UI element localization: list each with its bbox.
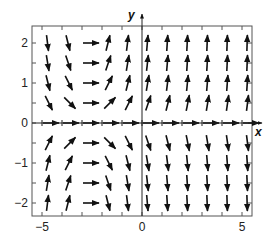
field-arrow bbox=[227, 155, 228, 171]
field-arrow bbox=[46, 175, 49, 191]
field-arrow bbox=[187, 55, 188, 71]
field-arrow bbox=[65, 156, 72, 170]
field-arrow bbox=[186, 95, 189, 111]
field-arrow bbox=[125, 136, 132, 150]
field-arrow bbox=[166, 95, 170, 111]
field-arrow bbox=[64, 97, 75, 108]
field-arrow bbox=[207, 155, 208, 171]
field-arrow bbox=[146, 155, 149, 171]
field-arrow bbox=[207, 55, 208, 71]
field-arrow bbox=[226, 135, 228, 151]
field-arrow bbox=[125, 96, 132, 110]
field-arrow bbox=[126, 175, 129, 191]
y-tick-label: 1 bbox=[21, 76, 28, 90]
field-arrow bbox=[66, 55, 71, 70]
field-arrow bbox=[207, 75, 208, 91]
field-arrow bbox=[247, 175, 248, 191]
field-arrow bbox=[106, 35, 110, 51]
field-arrow bbox=[227, 195, 228, 211]
field-arrow bbox=[106, 55, 111, 70]
field-arrow bbox=[167, 195, 168, 211]
field-arrow bbox=[206, 135, 209, 151]
x-tick-label: −5 bbox=[35, 220, 49, 234]
field-arrow bbox=[47, 195, 49, 211]
tick-labels: −505−2−1012 bbox=[14, 36, 245, 234]
field-arrow bbox=[147, 195, 148, 211]
field-arrow bbox=[126, 55, 129, 71]
field-arrow bbox=[207, 175, 208, 191]
field-arrow bbox=[147, 55, 149, 71]
field-arrow bbox=[166, 135, 170, 151]
field-arrow bbox=[187, 175, 188, 191]
field-arrow bbox=[126, 75, 130, 91]
field-arrow bbox=[247, 75, 248, 91]
field-arrow bbox=[226, 95, 228, 111]
field-arrow bbox=[167, 75, 169, 91]
field-arrow bbox=[146, 95, 151, 110]
field-arrow bbox=[104, 137, 115, 148]
field-arrow bbox=[207, 35, 208, 51]
field-arrow bbox=[247, 135, 249, 151]
field-arrow bbox=[227, 55, 228, 71]
field-arrow bbox=[45, 96, 52, 110]
field-arrow bbox=[227, 175, 228, 191]
field-arrow bbox=[65, 76, 72, 90]
field-arrow bbox=[187, 35, 188, 51]
field-arrow bbox=[167, 175, 168, 191]
field-arrow bbox=[247, 155, 248, 171]
y-tick-label: 0 bbox=[21, 116, 28, 130]
field-arrow bbox=[104, 97, 115, 108]
field-arrow bbox=[46, 155, 50, 171]
field-arrow bbox=[247, 55, 248, 71]
field-arrow bbox=[147, 35, 148, 51]
field-arrow bbox=[207, 195, 208, 211]
field-arrow bbox=[186, 135, 189, 151]
vector-field-plot: x y −505−2−1012 bbox=[0, 0, 279, 242]
field-arrow bbox=[147, 175, 149, 191]
field-arrow bbox=[66, 195, 70, 211]
field-arrow bbox=[187, 75, 189, 91]
field-arrow bbox=[106, 195, 110, 211]
field-arrow bbox=[167, 55, 168, 71]
field-arrow bbox=[187, 155, 189, 171]
field-arrow bbox=[146, 135, 151, 150]
field-arrow bbox=[47, 35, 49, 51]
field-arrow bbox=[127, 35, 129, 51]
x-tick-label: 5 bbox=[239, 220, 246, 234]
field-arrow bbox=[45, 136, 52, 150]
field-arrow bbox=[126, 155, 130, 171]
field-arrow bbox=[247, 95, 249, 111]
field-arrow bbox=[206, 95, 209, 111]
field-arrow bbox=[167, 155, 169, 171]
y-tick-label: 2 bbox=[21, 36, 28, 50]
field-arrow bbox=[127, 195, 129, 211]
field-arrow bbox=[66, 35, 70, 51]
field-arrow bbox=[146, 75, 149, 91]
field-arrow bbox=[106, 175, 111, 190]
field-arrow bbox=[227, 35, 228, 51]
x-axis-label: x bbox=[254, 125, 263, 139]
field-arrow bbox=[66, 175, 71, 190]
field-arrow bbox=[46, 75, 50, 91]
field-arrow bbox=[105, 156, 112, 170]
field-arrow bbox=[187, 195, 188, 211]
y-axis-label: y bbox=[127, 8, 136, 22]
field-arrow bbox=[167, 35, 168, 51]
y-tick-label: −1 bbox=[14, 156, 28, 170]
field-arrow bbox=[64, 137, 75, 148]
x-tick-label: 0 bbox=[139, 220, 146, 234]
y-tick-label: −2 bbox=[14, 196, 28, 210]
field-arrow bbox=[227, 75, 228, 91]
field-arrow bbox=[46, 55, 49, 71]
field-arrow bbox=[105, 76, 112, 90]
